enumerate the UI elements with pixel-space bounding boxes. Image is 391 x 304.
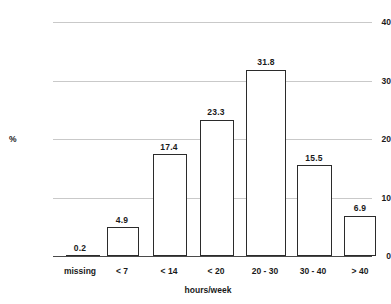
x-tick-label-gt-40: > 40 bbox=[337, 266, 383, 276]
bar-missing[interactable] bbox=[66, 255, 100, 256]
bar-30-40[interactable] bbox=[297, 165, 332, 256]
value-label-30-40: 15.5 bbox=[291, 153, 337, 163]
y-axis-title: % bbox=[9, 134, 17, 144]
bar-lt-14[interactable] bbox=[153, 154, 187, 256]
x-tick-label-lt-20: < 20 bbox=[193, 266, 239, 276]
value-label-lt-7: 4.9 bbox=[99, 215, 145, 225]
x-tick-label-lt-14: < 14 bbox=[146, 266, 192, 276]
bar-chart: 40 30 20 10 0 % 0.2 4.9 17.4 23 bbox=[0, 0, 391, 304]
bar-lt-20[interactable] bbox=[200, 120, 234, 256]
value-label-missing: 0.2 bbox=[56, 243, 104, 253]
x-tick-label-30-40: 30 - 40 bbox=[285, 266, 341, 276]
x-axis-title: hours/week bbox=[185, 285, 232, 295]
value-label-gt-40: 6.9 bbox=[337, 203, 383, 213]
axis-baseline bbox=[53, 256, 372, 257]
x-axis-title-wrap: hours/week bbox=[0, 285, 391, 295]
value-label-lt-20: 23.3 bbox=[193, 107, 239, 117]
bar-lt-7[interactable] bbox=[107, 227, 139, 256]
x-tick-label-lt-7: < 7 bbox=[99, 266, 145, 276]
bar-20-30[interactable] bbox=[246, 70, 286, 256]
bar-gt-40[interactable] bbox=[344, 216, 376, 256]
value-label-20-30: 31.8 bbox=[243, 57, 289, 67]
value-label-lt-14: 17.4 bbox=[146, 142, 192, 152]
